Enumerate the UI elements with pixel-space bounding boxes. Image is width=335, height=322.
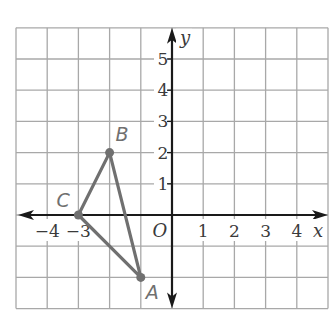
vertex-point-b [105,148,114,157]
y-tick-label: 2 [158,143,169,163]
x-tick-label: 1 [198,221,209,241]
vertex-label-c: C [56,189,70,211]
vertex-label-b: B [116,123,129,145]
x-tick-label: −4 [35,221,60,241]
origin-label: O [153,220,168,241]
y-tick-label: 4 [158,80,169,100]
x-tick-label: 4 [291,221,302,241]
x-tick-label: 2 [229,221,240,241]
x-axis-label: x [313,220,323,241]
y-tick-label: 1 [158,174,169,194]
x-tick-label: 3 [260,221,271,241]
y-tick-label: 5 [158,49,169,69]
y-axis-label: y [179,27,191,48]
y-tick-label: 3 [158,111,169,131]
vertex-point-c [74,211,83,220]
vertex-label-a: A [144,281,159,303]
coordinate-plane: −4−3123412345Oxy ABC [0,0,335,322]
axes [18,28,328,309]
vertices: ABC [56,123,158,304]
vertex-point-a [136,273,145,282]
